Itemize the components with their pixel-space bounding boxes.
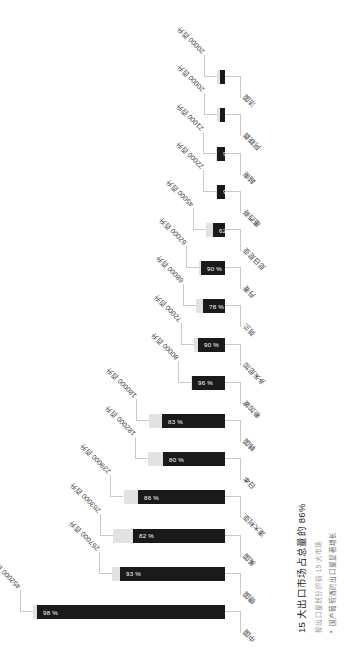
category-label: 中国 [240, 627, 257, 644]
bar-percent-label: 98 % [43, 609, 58, 616]
bar-percent-label: 83 % [168, 418, 183, 425]
category-leader-elbow [240, 612, 241, 633]
category-leader-elbow [240, 459, 241, 480]
note-bullet-item: • 国产葡萄酒的出口量显著增长 [327, 333, 337, 633]
category-leader-line [225, 76, 241, 77]
value-leader-elbow [20, 590, 21, 612]
bar-percent-label: 90 % [207, 265, 222, 272]
category-leader-line [225, 573, 241, 574]
bar-stack[interactable]: 62 % [206, 223, 225, 237]
bar-stack[interactable]: 86 % [124, 490, 225, 504]
bar-percent-label: 62 % [219, 227, 234, 234]
value-leader-elbow [136, 399, 137, 421]
chart-column: 62 %尼日尼亚45000 百升 [0, 211, 345, 237]
bar-segment-primary: 96 % [192, 376, 225, 390]
chart-column: 93 %越南21000 百升 [0, 135, 345, 161]
bar-stack[interactable]: 78 % [196, 299, 225, 313]
bar-segment-primary: 86 % [138, 490, 225, 504]
bar-segment-primary: 93 % [217, 147, 225, 161]
notes-block: 15 大出口市场占总量的 86% 按出口量划分的前 15 大市场 • 国产葡萄酒… [294, 333, 337, 633]
bar-stack[interactable]: 82 % [113, 529, 225, 543]
bar-segment-primary: 60 % [220, 70, 225, 84]
value-leader-elbow [135, 437, 136, 459]
bar-percent-label: 96 % [198, 379, 213, 386]
bar-percent-label: 90 % [204, 341, 219, 348]
category-leader-line [225, 305, 241, 306]
bar-segment-primary: 93 % [120, 567, 226, 581]
bar-stack[interactable]: 90 % [199, 261, 225, 275]
bar-segment-remainder [112, 567, 120, 581]
category-leader-elbow [240, 497, 241, 518]
category-leader-elbow [240, 306, 241, 327]
chart-title: 15 大出口市场占总量的 86% [294, 333, 308, 633]
value-leader-line [182, 344, 194, 345]
category-leader-elbow [240, 574, 241, 595]
value-leader-line [184, 305, 196, 306]
bar-stack[interactable]: 90 % [216, 185, 225, 199]
bar-segment-remainder [149, 414, 162, 428]
bar-segment-remainder [113, 529, 133, 543]
category-leader-elbow [240, 383, 241, 404]
bar-segment-remainder [124, 490, 138, 504]
bar-percent-label: 93 % [223, 150, 238, 157]
value-leader-elbow [203, 170, 204, 192]
bar-segment-primary: 65 % [220, 108, 226, 122]
bar-percent-label: 90 % [223, 188, 238, 195]
bar-stack[interactable]: 90 % [194, 338, 225, 352]
category-leader-line [225, 229, 241, 230]
category-leader-elbow [240, 115, 241, 136]
value-leader-line [204, 191, 216, 192]
bar-segment-primary: 62 % [213, 223, 225, 237]
bar-percent-label: 78 % [209, 303, 224, 310]
category-leader-line [225, 344, 241, 345]
bar-segment-primary: 90 % [217, 185, 225, 199]
bar-percent-label: 86 % [144, 494, 159, 501]
bar-segment-primary: 82 % [133, 529, 225, 543]
bar-stack[interactable]: 93 % [112, 567, 225, 581]
value-leader-line [136, 458, 148, 459]
value-leader-elbow [181, 323, 182, 345]
category-leader-line [225, 535, 241, 536]
category-leader-line [225, 420, 241, 421]
note-bullet-text: 国产葡萄酒的出口量显著增长 [327, 531, 337, 626]
value-leader-elbow [100, 514, 101, 536]
category-leader-elbow [240, 345, 241, 366]
bar-stack[interactable]: 93 % [216, 147, 225, 161]
chart-column: 65 %阿联酋20000 百升 [0, 96, 345, 122]
bar-percent-label: 80 % [169, 456, 184, 463]
value-leader-line [21, 611, 33, 612]
value-leader-line [137, 420, 149, 421]
value-leader-line [101, 535, 113, 536]
category-leader-elbow [240, 230, 241, 251]
bar-stack[interactable]: 96 % [191, 376, 225, 390]
value-leader-elbow [204, 93, 205, 115]
category-leader-elbow [240, 268, 241, 289]
bar-stack[interactable]: 80 % [148, 452, 225, 466]
value-leader-line [194, 229, 206, 230]
category-leader-line [225, 114, 241, 115]
category-leader-elbow [240, 154, 241, 175]
value-leader-elbow [110, 475, 111, 497]
bar-stack[interactable]: 60 % [217, 70, 225, 84]
value-leader-line [187, 267, 199, 268]
category-leader-line [225, 153, 241, 154]
category-leader-elbow [240, 77, 241, 98]
value-leader-line [204, 153, 216, 154]
bar-percent-label: 82 % [139, 532, 154, 539]
value-leader-elbow [186, 246, 187, 268]
bar-stack[interactable]: 83 % [149, 414, 226, 428]
chart-figure: 98 %中国452000 百升93 %德国267000 百升82 %美国2630… [0, 0, 345, 649]
value-leader-elbow [204, 55, 205, 77]
value-leader-line [111, 496, 123, 497]
bar-stack[interactable]: 98 % [33, 605, 225, 619]
bar-stack[interactable]: 65 % [217, 108, 226, 122]
value-leader-line [205, 76, 217, 77]
value-leader-line [205, 114, 217, 115]
value-label: 20000 百升 [174, 25, 206, 57]
category-leader-line [225, 191, 241, 192]
category-leader-line [225, 267, 241, 268]
chart-column: 78 %荷兰68000 百升 [0, 287, 345, 313]
category-leader-line [225, 458, 241, 459]
chart-subtitle: 按出口量划分的前 15 大市场 [313, 333, 323, 633]
value-leader-line [179, 382, 191, 383]
